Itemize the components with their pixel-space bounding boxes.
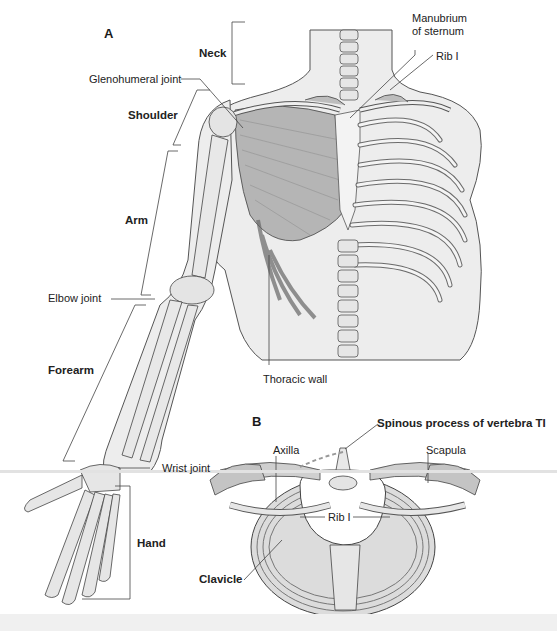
label-rib-i-a: Rib I bbox=[436, 50, 459, 63]
label-forearm: Forearm bbox=[48, 364, 94, 377]
label-manubrium-line2: of sternum bbox=[412, 25, 464, 38]
label-thoracic-wall: Thoracic wall bbox=[263, 373, 327, 386]
label-neck: Neck bbox=[199, 47, 227, 60]
hand-bones bbox=[24, 464, 120, 604]
label-axilla: Axilla bbox=[273, 444, 299, 457]
anatomy-illustration bbox=[0, 0, 557, 631]
arm-bones bbox=[122, 107, 237, 462]
label-scapula: Scapula bbox=[426, 444, 466, 457]
label-arm: Arm bbox=[125, 214, 148, 227]
label-hand: Hand bbox=[137, 537, 166, 550]
label-elbow-joint: Elbow joint bbox=[48, 292, 101, 305]
label-wrist-joint: Wrist joint bbox=[162, 462, 210, 475]
label-shoulder: Shoulder bbox=[128, 109, 178, 122]
label-spinous-process: Spinous process of vertebra TI bbox=[377, 417, 546, 430]
label-manubrium-line1: Manubrium bbox=[412, 12, 467, 25]
panel-label-a: A bbox=[104, 26, 113, 41]
label-rib-i-b: Rib I bbox=[328, 511, 351, 524]
label-clavicle: Clavicle bbox=[199, 573, 242, 586]
thoracic-outlet-illustration bbox=[210, 448, 480, 617]
label-glenohumeral-joint: Glenohumeral joint bbox=[89, 73, 181, 86]
panel-label-b: B bbox=[252, 414, 261, 429]
